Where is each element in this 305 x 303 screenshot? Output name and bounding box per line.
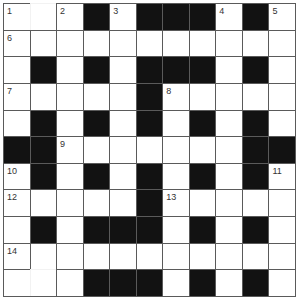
block-cell: [30, 56, 57, 83]
answer-cell[interactable]: [162, 110, 189, 137]
answer-cell[interactable]: [56, 83, 83, 110]
answer-cell[interactable]: [215, 216, 242, 243]
answer-cell[interactable]: [162, 269, 189, 296]
clue-number: 13: [166, 193, 176, 202]
answer-cell[interactable]: [162, 216, 189, 243]
answer-cell[interactable]: [215, 163, 242, 190]
block-cell: [189, 163, 216, 190]
block-cell: [136, 269, 163, 296]
block-cell: [242, 3, 269, 30]
answer-cell[interactable]: [215, 56, 242, 83]
answer-cell[interactable]: [109, 56, 136, 83]
answer-cell[interactable]: 10: [3, 163, 30, 190]
answer-cell[interactable]: 7: [3, 83, 30, 110]
block-cell: [3, 136, 30, 163]
answer-cell[interactable]: [83, 30, 110, 57]
answer-cell[interactable]: [162, 136, 189, 163]
answer-cell[interactable]: [30, 3, 57, 30]
answer-cell[interactable]: [136, 243, 163, 270]
answer-cell[interactable]: [215, 189, 242, 216]
answer-cell[interactable]: [56, 243, 83, 270]
answer-cell[interactable]: 2: [56, 3, 83, 30]
answer-cell[interactable]: [3, 269, 30, 296]
answer-cell[interactable]: 3: [109, 3, 136, 30]
answer-cell[interactable]: 14: [3, 243, 30, 270]
answer-cell[interactable]: [30, 30, 57, 57]
block-cell: [189, 3, 216, 30]
answer-cell[interactable]: [136, 30, 163, 57]
answer-cell[interactable]: [83, 83, 110, 110]
answer-cell[interactable]: [189, 243, 216, 270]
answer-cell[interactable]: [30, 269, 57, 296]
answer-cell[interactable]: [56, 110, 83, 137]
block-cell: [83, 56, 110, 83]
answer-cell[interactable]: [109, 30, 136, 57]
answer-cell[interactable]: [83, 189, 110, 216]
answer-cell[interactable]: [56, 56, 83, 83]
answer-cell[interactable]: [56, 216, 83, 243]
clue-number: 12: [7, 193, 17, 202]
answer-cell[interactable]: [83, 243, 110, 270]
answer-cell[interactable]: [109, 83, 136, 110]
answer-cell[interactable]: [162, 243, 189, 270]
answer-cell[interactable]: 13: [162, 189, 189, 216]
answer-cell[interactable]: 4: [215, 3, 242, 30]
answer-cell[interactable]: [268, 30, 295, 57]
answer-cell[interactable]: 9: [56, 136, 83, 163]
answer-cell[interactable]: [215, 30, 242, 57]
answer-cell[interactable]: [268, 83, 295, 110]
answer-cell[interactable]: [268, 56, 295, 83]
answer-cell[interactable]: [242, 243, 269, 270]
answer-cell[interactable]: [215, 83, 242, 110]
clue-number: 9: [60, 140, 65, 149]
clue-number: 5: [272, 7, 277, 16]
answer-cell[interactable]: [109, 243, 136, 270]
answer-cell[interactable]: [3, 216, 30, 243]
answer-cell[interactable]: [189, 136, 216, 163]
answer-cell[interactable]: [3, 56, 30, 83]
answer-cell[interactable]: [109, 136, 136, 163]
answer-cell[interactable]: [268, 269, 295, 296]
answer-cell[interactable]: [268, 243, 295, 270]
answer-cell[interactable]: [162, 163, 189, 190]
answer-cell[interactable]: [30, 243, 57, 270]
answer-cell[interactable]: [268, 216, 295, 243]
answer-cell[interactable]: 6: [3, 30, 30, 57]
answer-cell[interactable]: [189, 30, 216, 57]
answer-cell[interactable]: 1: [3, 3, 30, 30]
answer-cell[interactable]: [83, 136, 110, 163]
answer-cell[interactable]: 12: [3, 189, 30, 216]
clue-number: 2: [60, 7, 65, 16]
answer-cell[interactable]: [242, 30, 269, 57]
answer-cell[interactable]: [3, 110, 30, 137]
answer-cell[interactable]: 5: [268, 3, 295, 30]
clue-number: 11: [272, 167, 281, 176]
answer-cell[interactable]: [215, 243, 242, 270]
answer-cell[interactable]: [109, 163, 136, 190]
clue-number: 4: [219, 7, 224, 16]
block-cell: [189, 216, 216, 243]
answer-cell[interactable]: [189, 83, 216, 110]
answer-cell[interactable]: [268, 110, 295, 137]
answer-cell[interactable]: 11: [268, 163, 295, 190]
answer-cell[interactable]: [162, 30, 189, 57]
answer-cell[interactable]: [56, 269, 83, 296]
answer-cell[interactable]: [136, 136, 163, 163]
answer-cell[interactable]: [56, 30, 83, 57]
answer-cell[interactable]: [215, 110, 242, 137]
answer-cell[interactable]: [109, 189, 136, 216]
answer-cell[interactable]: [189, 189, 216, 216]
answer-cell[interactable]: [268, 189, 295, 216]
answer-cell[interactable]: [242, 189, 269, 216]
answer-cell[interactable]: [30, 83, 57, 110]
block-cell: [242, 216, 269, 243]
answer-cell[interactable]: [56, 163, 83, 190]
answer-cell[interactable]: 8: [162, 83, 189, 110]
block-cell: [242, 269, 269, 296]
answer-cell[interactable]: [215, 136, 242, 163]
answer-cell[interactable]: [215, 269, 242, 296]
answer-cell[interactable]: [56, 189, 83, 216]
answer-cell[interactable]: [242, 83, 269, 110]
answer-cell[interactable]: [109, 110, 136, 137]
answer-cell[interactable]: [30, 189, 57, 216]
